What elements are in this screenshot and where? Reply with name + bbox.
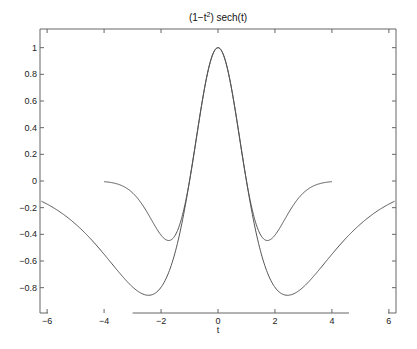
x-axis-ticks: −6−4−20246 (42, 29, 391, 326)
y-tick-label: 1 (32, 43, 37, 53)
line-series-2 (104, 48, 332, 241)
y-tick-label: −0.4 (19, 229, 37, 239)
x-tick-label: 2 (272, 316, 277, 326)
x-tick-label: −2 (156, 316, 166, 326)
plot-lines (41, 48, 394, 296)
plot-title: (1−t2) sech(t) (189, 11, 247, 23)
axes-frame (40, 29, 396, 313)
y-tick-label: −0.8 (19, 283, 37, 293)
x-tick-label: 4 (329, 316, 334, 326)
line-series-1 (41, 48, 394, 296)
y-tick-label: 0.4 (24, 123, 37, 133)
y-axis-ticks: 10.80.60.40.20−0.2−0.4−0.6−0.8 (19, 43, 396, 293)
y-tick-label: −0.6 (19, 256, 37, 266)
x-tick-label: −6 (42, 316, 52, 326)
y-tick-label: −0.2 (19, 203, 37, 213)
y-tick-label: 0.2 (24, 149, 37, 159)
chart-figure: (1−t2) sech(t) 10.80.60.40.20−0.2−0.4−0.… (0, 0, 417, 349)
x-tick-label: 6 (386, 316, 391, 326)
x-axis-label: t (217, 325, 220, 335)
y-tick-label: 0 (32, 176, 37, 186)
x-tick-label: −4 (99, 316, 109, 326)
svg-text:(1−t2) sech(t): (1−t2) sech(t) (189, 11, 247, 23)
y-tick-label: 0.6 (24, 96, 37, 106)
y-tick-label: 0.8 (24, 69, 37, 79)
